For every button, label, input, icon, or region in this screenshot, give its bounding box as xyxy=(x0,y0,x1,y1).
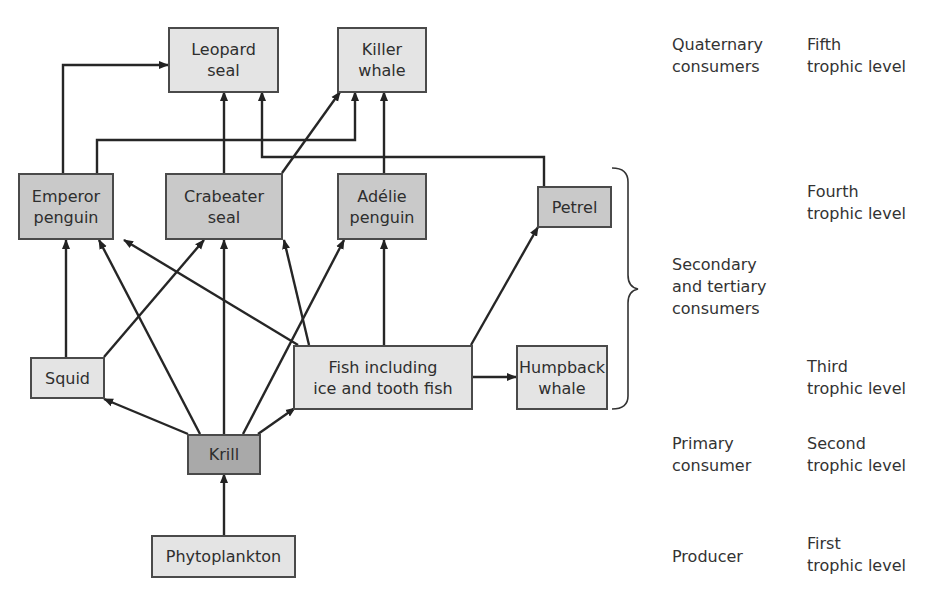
brace xyxy=(612,168,638,409)
node-crabeater-seal: Crabeater seal xyxy=(165,173,283,240)
node-leopard-seal: Leopard seal xyxy=(168,27,279,93)
node-fish: Fish including ice and tooth fish xyxy=(293,345,473,410)
node-emperor-penguin: Emperor penguin xyxy=(18,173,114,240)
label-fifth-trophic-level: Fifth trophic level xyxy=(807,34,906,78)
node-killer-whale: Killer whale xyxy=(337,27,427,93)
label-secondary-tertiary-consumers: Secondary and tertiary consumers xyxy=(672,254,766,320)
node-adelie-penguin: Adélie penguin xyxy=(337,173,427,240)
label-second-trophic-level: Second trophic level xyxy=(807,433,906,477)
label-fourth-trophic-level: Fourth trophic level xyxy=(807,181,906,225)
node-humpback-whale: Humpback whale xyxy=(516,345,608,410)
label-primary-consumer: Primary consumer xyxy=(672,433,751,477)
label-first-trophic-level: First trophic level xyxy=(807,533,906,577)
node-krill: Krill xyxy=(187,434,261,475)
label-producer: Producer xyxy=(672,546,743,568)
label-third-trophic-level: Third trophic level xyxy=(807,356,906,400)
node-phytoplankton: Phytoplankton xyxy=(151,535,296,578)
node-squid: Squid xyxy=(30,357,105,399)
node-petrel: Petrel xyxy=(537,186,612,228)
label-quaternary-consumers: Quaternary consumers xyxy=(672,34,763,78)
food-web-arrows xyxy=(0,0,938,606)
